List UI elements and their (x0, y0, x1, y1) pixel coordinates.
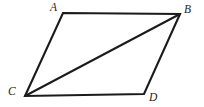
parallelogram-drawing (0, 0, 204, 107)
vertex-label-b: B (184, 4, 191, 16)
diagonal-segment-cb (25, 14, 180, 96)
vertex-label-d: D (149, 92, 157, 104)
vertex-label-c: C (8, 86, 16, 98)
geometry-figure: A B C D (0, 0, 204, 107)
vertex-label-a: A (50, 2, 57, 14)
